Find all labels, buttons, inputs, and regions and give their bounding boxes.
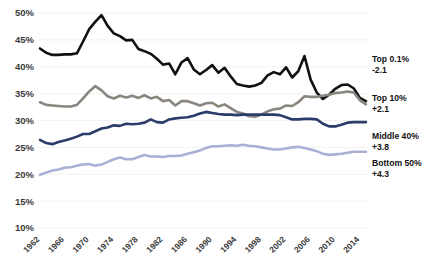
income-share-line-chart: 50%45%40%35%30%25%20%15%10% 196219661970…: [0, 0, 441, 274]
x-tick-label: 2014: [341, 234, 361, 254]
legend-label-name: Top 0.1%: [372, 54, 409, 64]
x-tick-label: 2006: [292, 234, 312, 254]
x-tick-label: 1990: [193, 234, 213, 254]
x-tick-label: 1970: [70, 234, 90, 254]
x-tick-label: 1998: [243, 234, 263, 254]
x-tick-label: 1962: [21, 234, 41, 254]
legend-label-delta: +2.1: [372, 104, 389, 114]
x-tick-label: 2002: [267, 234, 287, 254]
x-tick-label: 1986: [169, 234, 189, 254]
y-tick-label: 45%: [15, 34, 35, 45]
x-tick-label: 2010: [316, 234, 336, 254]
x-tick-label: 1994: [218, 234, 238, 254]
legend-label-name: Middle 40%: [372, 131, 419, 141]
legend-label-name: Top 10%: [372, 93, 407, 103]
y-tick-label: 50%: [15, 7, 35, 18]
chart-canvas: 50%45%40%35%30%25%20%15%10% 196219661970…: [0, 0, 441, 274]
y-tick-label: 30%: [15, 115, 35, 126]
legend-label-name: Bottom 50%: [372, 158, 422, 168]
y-tick-label: 40%: [15, 61, 35, 72]
y-tick-label: 15%: [15, 196, 35, 207]
legend-label-delta: +4.3: [372, 169, 389, 179]
series-line-middle-40: [40, 112, 366, 144]
x-tick-label: 1974: [95, 234, 115, 254]
y-tick-label: 10%: [15, 222, 35, 233]
series-line-top-0-1: [40, 15, 366, 101]
x-tick-label: 1966: [46, 234, 66, 254]
legend-label-delta: +3.8: [372, 142, 389, 152]
series-lines-group: [40, 15, 366, 175]
x-axis-tick-labels: 1962196619701974197819821986199019941998…: [21, 234, 361, 254]
y-axis-tick-labels: 50%45%40%35%30%25%20%15%10%: [15, 7, 35, 233]
series-line-bottom-50: [40, 145, 366, 175]
y-tick-label: 35%: [15, 88, 35, 99]
legend-label-delta: -2.1: [372, 65, 387, 75]
x-tick-label: 1978: [120, 234, 140, 254]
series-legend-group: Top 0.1%-2.1Top 10%+2.1Middle 40%+3.8Bot…: [372, 54, 422, 179]
x-tick-label: 1982: [144, 234, 164, 254]
y-tick-label: 20%: [15, 169, 35, 180]
y-tick-label: 25%: [15, 142, 35, 153]
